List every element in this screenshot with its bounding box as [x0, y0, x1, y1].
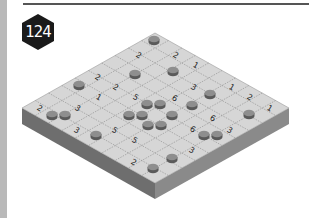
game-token-disc: [167, 154, 178, 163]
game-token-disc: [199, 131, 210, 140]
game-token-disc: [149, 36, 160, 45]
game-token-disc: [167, 111, 178, 120]
isometric-game-board: 2212231156223163563532: [0, 0, 309, 218]
game-token-disc: [142, 100, 153, 109]
game-token-disc: [130, 70, 141, 79]
game-token-disc: [60, 111, 71, 120]
game-token-disc: [205, 90, 216, 99]
game-token-disc: [148, 164, 159, 173]
game-token-disc: [187, 101, 198, 110]
game-token-disc: [168, 67, 179, 76]
game-token-disc: [155, 100, 166, 109]
game-token-disc: [91, 131, 102, 140]
game-token-disc: [137, 111, 148, 120]
game-token-disc: [124, 111, 135, 120]
game-token-disc: [47, 111, 58, 120]
game-token-disc: [244, 110, 255, 119]
game-token-disc: [156, 121, 167, 130]
game-token-disc: [212, 131, 223, 140]
game-token-disc: [74, 81, 85, 90]
game-token-disc: [143, 121, 154, 130]
